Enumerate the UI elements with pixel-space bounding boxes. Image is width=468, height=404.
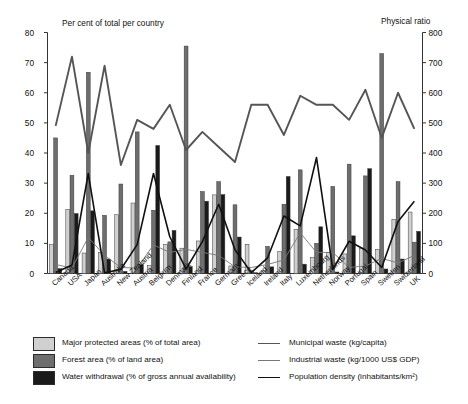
chart-container: Per cent of total per country Physical r… (0, 0, 468, 404)
legend-label: Major protected areas (% of total area) (62, 338, 201, 347)
right-tick-label: 600 (429, 88, 443, 98)
bar (221, 195, 225, 274)
bar (347, 164, 351, 273)
bar (286, 177, 290, 274)
line-series (56, 57, 415, 165)
right-tick-label: 300 (429, 178, 443, 188)
bar (380, 54, 384, 274)
bar (184, 46, 188, 273)
bar (368, 169, 372, 274)
left-tick-label: 20 (12, 208, 34, 218)
right-tick-label: 0 (429, 269, 434, 279)
legend-label: Population density (inhabitants/km²) (289, 372, 418, 381)
left-tick-label: 50 (12, 118, 34, 128)
legend-line-swatch (258, 343, 280, 344)
legend-line-swatch (258, 377, 280, 378)
legend-label: Municipal waste (kg/capita) (289, 338, 387, 347)
left-tick-label: 60 (12, 88, 34, 98)
right-tick-label: 100 (429, 238, 443, 248)
bar (282, 204, 286, 273)
bar (364, 176, 368, 274)
left-tick-label: 10 (12, 238, 34, 248)
legend-label: Forest area (% of land area) (62, 355, 163, 364)
right-tick-label: 200 (429, 208, 443, 218)
bar (54, 138, 58, 274)
bar (152, 210, 156, 273)
bar (205, 201, 209, 273)
left-tick-label: 70 (12, 58, 34, 68)
legend-swatch (33, 371, 55, 385)
bar (294, 230, 298, 274)
bar (135, 132, 139, 274)
right-tick-label: 800 (429, 28, 443, 38)
bar (82, 253, 86, 273)
bar (156, 145, 160, 273)
legend-swatch (33, 337, 55, 351)
left-tick-label: 80 (12, 28, 34, 38)
legend-label: Industrial waste (kg/1000 US$ GDP) (289, 355, 419, 364)
right-tick-label: 400 (429, 148, 443, 158)
bar (200, 192, 204, 274)
left-tick-label: 0 (12, 269, 34, 279)
right-tick-label: 700 (429, 58, 443, 68)
legend-label: Water withdrawal (% of gross annual avai… (62, 372, 236, 381)
bar (213, 195, 217, 274)
bar (396, 182, 400, 274)
left-tick-label: 40 (12, 148, 34, 158)
right-tick-label: 500 (429, 118, 443, 128)
legend-line-swatch (258, 360, 280, 361)
bar (351, 236, 355, 274)
bar (217, 182, 221, 274)
bar (50, 245, 54, 274)
left-tick-label: 30 (12, 178, 34, 188)
legend-swatch (33, 354, 55, 368)
